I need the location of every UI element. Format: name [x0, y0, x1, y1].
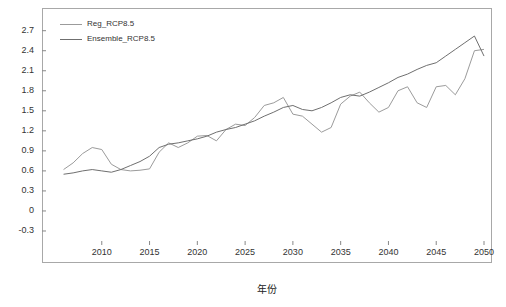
x-tick-label: 2045	[416, 247, 456, 257]
legend-item-reg: Reg_RCP8.5	[60, 18, 155, 30]
y-tick-label: 1.8	[0, 85, 34, 95]
y-tick-label: 0.3	[0, 185, 34, 195]
legend-label-ensemble: Ensemble_RCP8.5	[87, 34, 155, 44]
chart-page: -0.300.30.60.91.21.51.82.12.42.7 2010201…	[0, 0, 506, 307]
legend-label-reg: Reg_RCP8.5	[87, 19, 134, 29]
x-tick-label: 2010	[82, 247, 122, 257]
x-tick-label: 2040	[368, 247, 408, 257]
y-tick-label: 0.6	[0, 165, 34, 175]
legend-item-ensemble: Ensemble_RCP8.5	[60, 33, 155, 45]
x-axis-label: 年份	[217, 281, 317, 296]
chart-legend: Reg_RCP8.5 Ensemble_RCP8.5	[60, 18, 155, 48]
y-tick-label: 0.9	[0, 145, 34, 155]
x-tick-label: 2030	[273, 247, 313, 257]
y-tick-label: 1.2	[0, 125, 34, 135]
x-tick-label: 2035	[321, 247, 361, 257]
y-tick-label: 0	[0, 205, 34, 215]
y-tick-label: 1.5	[0, 105, 34, 115]
x-tick-label: 2015	[130, 247, 170, 257]
y-tick-label: -0.3	[0, 225, 34, 235]
y-tick-label: 2.7	[0, 25, 34, 35]
x-tick-label: 2025	[225, 247, 265, 257]
x-tick-label: 2050	[464, 247, 504, 257]
legend-swatch-reg	[60, 24, 82, 25]
legend-swatch-ensemble	[60, 39, 82, 40]
y-tick-label: 2.1	[0, 65, 34, 75]
x-tick-label: 2020	[177, 247, 217, 257]
y-tick-label: 2.4	[0, 45, 34, 55]
